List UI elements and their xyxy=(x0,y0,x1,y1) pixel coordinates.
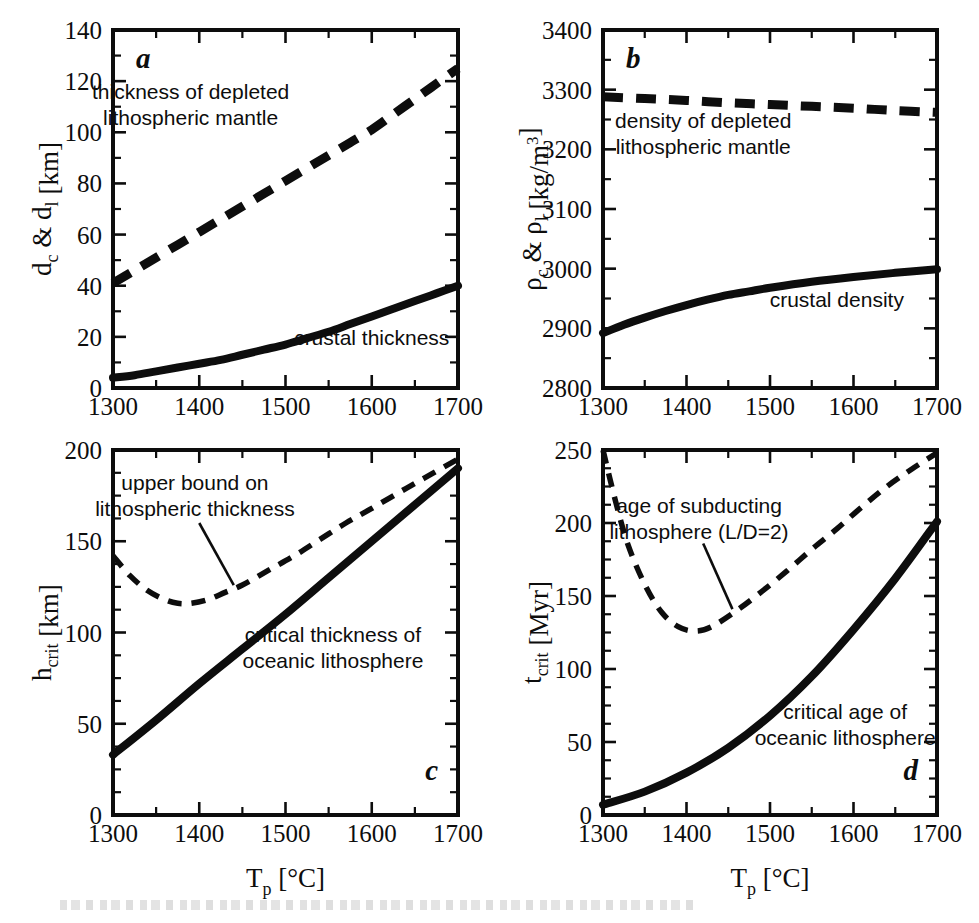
panel-b-annotation-1-line-0: crustal density xyxy=(770,288,905,311)
multi-panel-chart: 13001400150016001700020406080100120140th… xyxy=(0,0,979,923)
panel-a-annotation-1-line-0: crustal thickness xyxy=(294,326,449,349)
panel-d-ytick-label: 50 xyxy=(567,729,592,756)
panel-a-ytick-label: 60 xyxy=(77,222,102,249)
panel-d-xtick-label: 1400 xyxy=(662,820,712,847)
panel-d-ytick-label: 200 xyxy=(555,510,593,537)
panel-b-ytick-label: 2800 xyxy=(542,375,592,402)
figure-container: 13001400150016001700020406080100120140th… xyxy=(0,0,979,923)
panel-d-ytick-label: 150 xyxy=(555,583,593,610)
figure-background xyxy=(0,0,979,923)
panel-c-annotation-1-line-0: critical thickness of xyxy=(245,623,421,646)
panel-b-xtick-label: 1600 xyxy=(829,393,879,420)
panel-c-ytick-label: 200 xyxy=(65,437,103,464)
cropped-caption-smudge xyxy=(60,900,700,910)
panel-c-ytick-label: 0 xyxy=(90,802,103,829)
panel-c-xtick-label: 1500 xyxy=(261,820,311,847)
panel-b-xtick-label: 1500 xyxy=(745,393,795,420)
panel-b-annotation-1: crustal density xyxy=(770,288,905,311)
panel-c-annotation-1-line-1: oceanic lithosphere xyxy=(242,649,423,672)
panel-a-ytick-label: 140 xyxy=(65,17,103,44)
panel-b-xtick-label: 1700 xyxy=(912,393,962,420)
panel-b-panel-letter: b xyxy=(626,42,641,74)
panel-a-xtick-label: 1400 xyxy=(174,393,224,420)
panel-b-annotation-0-line-0: density of depleted xyxy=(615,109,791,132)
panel-c-ytick-label: 50 xyxy=(77,711,102,738)
panel-c-ytick-label: 100 xyxy=(65,620,103,647)
panel-a-ytick-label: 100 xyxy=(65,119,103,146)
panel-a-ytick-label: 20 xyxy=(77,324,102,351)
panel-b-xtick-label: 1400 xyxy=(662,393,712,420)
panel-a-annotation-0-line-1: lithospheric mantle xyxy=(103,106,278,129)
panel-a-panel-letter: a xyxy=(136,42,151,74)
panel-a-ytick-label: 40 xyxy=(77,273,102,300)
panel-d-panel-letter: d xyxy=(904,754,919,786)
panel-c-annotation-0-line-1: lithospheric thickness xyxy=(95,497,295,520)
panel-a-xtick-label: 1700 xyxy=(433,393,483,420)
panel-d-ytick-label: 100 xyxy=(555,656,593,683)
panel-a-annotation-0-line-0: thickness of depleted xyxy=(92,80,289,103)
panel-b-annotation-0-line-1: lithospheric mantle xyxy=(616,135,791,158)
panel-c-panel-letter: c xyxy=(425,754,438,786)
panel-d-xtick-label: 1700 xyxy=(912,820,962,847)
panel-d-xtick-label: 1600 xyxy=(829,820,879,847)
panel-c-xtick-label: 1400 xyxy=(174,820,224,847)
panel-d-ytick-label: 250 xyxy=(555,437,593,464)
panel-d-annotation-1-line-1: oceanic lithosphere xyxy=(755,726,936,749)
panel-a-xtick-label: 1600 xyxy=(347,393,397,420)
panel-b-ytick-label: 3400 xyxy=(542,17,592,44)
panel-b-ytick-label: 2900 xyxy=(542,315,592,342)
panel-a-ytick-label: 80 xyxy=(77,170,102,197)
panel-c-ytick-label: 150 xyxy=(65,528,103,555)
panel-d-annotation-0-line-0: age of subducting xyxy=(616,494,782,517)
panel-c-xtick-label: 1700 xyxy=(433,820,483,847)
panel-d-annotation-1-line-0: critical age of xyxy=(783,700,907,723)
panel-a-xtick-label: 1500 xyxy=(261,393,311,420)
panel-c-annotation-0-line-0: upper bound on xyxy=(121,471,268,494)
panel-a-annotation-1: crustal thickness xyxy=(294,326,449,349)
panel-b-ytick-label: 3300 xyxy=(542,77,592,104)
panel-d-ytick-label: 0 xyxy=(580,802,593,829)
panel-a-ytick-label: 0 xyxy=(90,375,103,402)
panel-d-annotation-0-line-1: lithosphere (L/D=2) xyxy=(609,520,788,543)
panel-d-xtick-label: 1500 xyxy=(745,820,795,847)
panel-c-xtick-label: 1600 xyxy=(347,820,397,847)
